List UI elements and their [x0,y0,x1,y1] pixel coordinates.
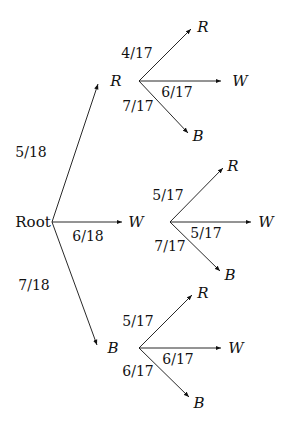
prob-W-B: 7/17 [154,239,185,253]
prob-B-W: 6/17 [162,352,193,366]
prob-R-W: 6/17 [161,85,192,99]
prob-R-B: 7/17 [122,99,153,113]
B-W-node: W [228,341,243,356]
prob-root-blue: 7/18 [18,278,49,292]
prob-R-R: 4/17 [121,46,152,60]
prob-root-red: 5/18 [15,145,46,159]
prob-B-R: 5/17 [122,314,153,328]
prob-B-B: 6/17 [122,364,153,378]
edge-root-R [52,84,98,222]
prob-root-white: 6/18 [72,229,103,243]
R-W-node: W [232,74,247,89]
B-B-node: B [193,396,204,411]
W-B-node: B [224,268,235,283]
W-W-node: W [258,215,273,230]
root-node: Root [15,215,50,230]
level1-blue-node: B [107,341,118,356]
level1-red-node: R [110,74,121,89]
W-R-node: R [227,159,238,174]
prob-W-W: 5/17 [190,226,221,240]
tree-edges [0,0,288,421]
B-R-node: R [197,286,208,301]
level1-white-node: W [128,215,143,230]
probability-tree: Root R W B 5/18 6/18 7/18 R W B 4/17 6/1… [0,0,288,421]
R-B-node: B [192,129,203,144]
R-R-node: R [197,20,208,35]
prob-W-R: 5/17 [152,188,183,202]
